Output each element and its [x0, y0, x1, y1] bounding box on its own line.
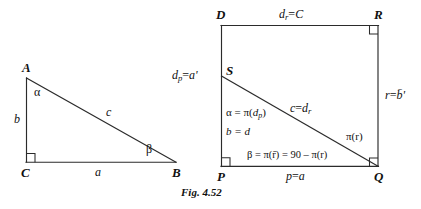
edge-label-right-rhs: b̄': [396, 88, 405, 102]
side-label-b: b: [14, 113, 20, 125]
vertex-label-B: B: [172, 166, 181, 179]
edge-label-bottom-equals: =: [292, 169, 299, 183]
edge-label-right-r-eq-bbarprime: r=b̄': [385, 89, 405, 101]
vertex-label-D: D: [216, 8, 225, 21]
diagonal-label-rhs-sub: r: [308, 106, 311, 116]
edge-label-top-dr-eq-C: dr=C: [279, 8, 303, 22]
edge-label-top-rhs: C: [295, 7, 303, 21]
edge-label-left-dp-eq-aprime: dp=a': [172, 69, 198, 83]
vertex-label-R: R: [374, 8, 383, 21]
right-rectangle-lines: [221, 26, 379, 167]
interior-label-beta-equation: β = π(r̄) = 90 – π(r): [247, 150, 327, 161]
vertex-label-P: P: [217, 170, 225, 183]
left-triangle-lines: [26, 78, 176, 162]
vertex-label-Q: Q: [374, 170, 383, 183]
interior-label-b-eq-d: b = d: [226, 126, 250, 137]
interior-alpha-equals: =: [232, 106, 244, 118]
vertex-label-A: A: [22, 61, 31, 74]
right-angle-marker-R: [370, 26, 379, 35]
figure-4-52: A C B b a c α β D R Q P S dr=C dp=a' r=b…: [0, 0, 421, 209]
angle-label-beta: β: [146, 143, 152, 155]
triangle-side-c-line: [27, 78, 177, 162]
interior-label-alpha-eq-pi-dp: α = π(dp): [226, 107, 266, 120]
diagonal-label-c-eq-dr: c=dr: [290, 102, 311, 116]
side-label-a: a: [95, 166, 101, 178]
figure-caption: Fig. 4.52: [181, 186, 222, 198]
edge-label-left-rhs: a': [189, 68, 198, 82]
edge-label-bottom-p-eq-a: p=a: [286, 170, 305, 182]
interior-alpha-paren-close: ): [262, 106, 266, 118]
interior-label-pi-r: π(r): [346, 131, 363, 142]
edge-label-bottom-rhs: a: [299, 169, 305, 183]
side-label-c: c: [106, 106, 111, 118]
vertex-label-C: C: [21, 166, 30, 179]
vertex-label-S: S: [226, 64, 233, 77]
right-angle-marker-C: [27, 154, 36, 163]
right-angle-marker-P: [222, 158, 231, 167]
angle-label-alpha: α: [34, 86, 40, 98]
figure-line-art: [0, 0, 421, 209]
